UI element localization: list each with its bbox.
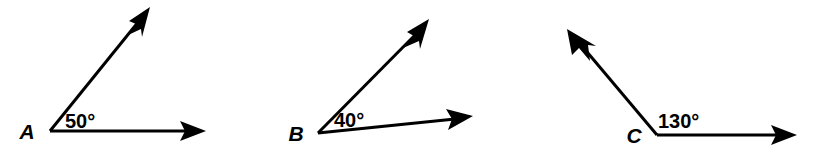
angle-a-upper-ray-arrow-icon xyxy=(126,7,150,37)
angle-a-vertex-label: A xyxy=(18,120,34,143)
angle-c-group: C 130° xyxy=(567,29,797,147)
angle-b-vertex-label: B xyxy=(288,122,303,145)
angle-a-group: A 50° xyxy=(18,7,206,143)
angle-c-upper-left-ray xyxy=(582,46,657,135)
angle-c-vertex-label: C xyxy=(626,124,642,147)
angle-a-measure-label: 50° xyxy=(65,110,95,132)
angle-b-measure-label: 40° xyxy=(334,109,364,131)
angles-diagram-svg: A 50° B 40° C 130° xyxy=(0,0,814,151)
angle-c-measure-label: 130° xyxy=(658,110,699,132)
angle-b-upper-ray-arrow-icon xyxy=(403,19,429,49)
angle-b-upper-ray xyxy=(318,33,417,133)
angle-b-group: B 40° xyxy=(288,19,473,145)
angles-figure: A 50° B 40° C 130° xyxy=(0,0,814,151)
